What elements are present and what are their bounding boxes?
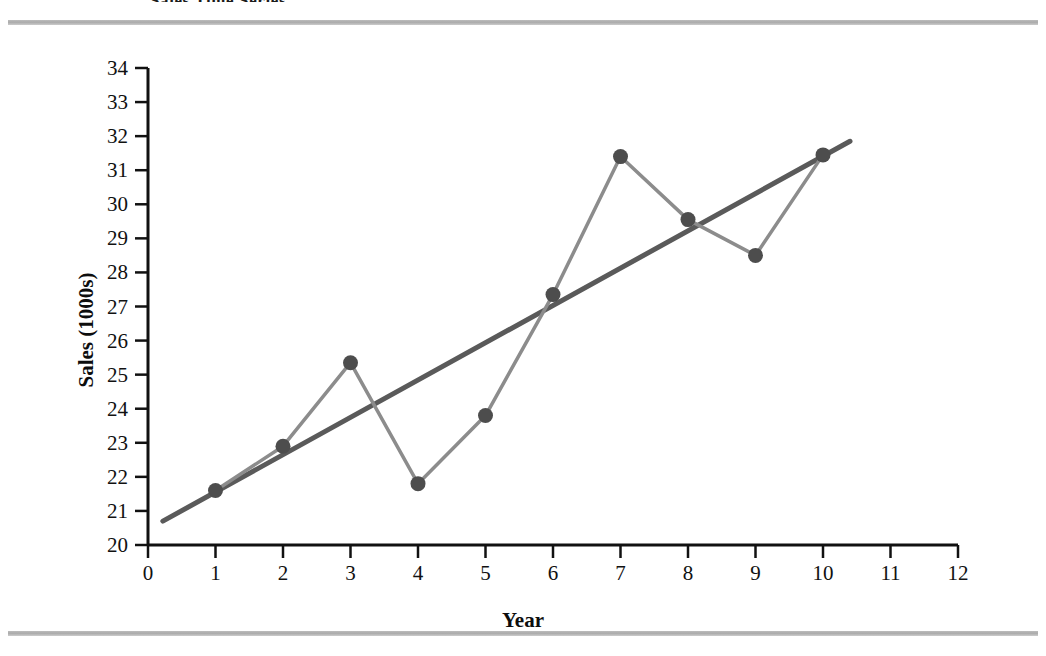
trend-line-path bbox=[163, 141, 850, 521]
page-rule-top bbox=[8, 20, 1038, 25]
y-tick-label: 28 bbox=[107, 262, 128, 283]
x-tick-label: 4 bbox=[413, 563, 424, 584]
x-tick-label: 8 bbox=[683, 563, 694, 584]
y-tick-label: 33 bbox=[107, 92, 128, 113]
x-tick-label: 1 bbox=[210, 563, 221, 584]
y-tick-label: 30 bbox=[107, 194, 128, 215]
y-tick-label: 20 bbox=[107, 535, 128, 556]
y-tick-label: 29 bbox=[107, 228, 128, 249]
x-axis-ticks bbox=[148, 545, 958, 558]
x-tick-label: 3 bbox=[345, 563, 356, 584]
sales-time-series-chart: 202122232425262728293031323334 012345678… bbox=[0, 30, 1046, 625]
y-tick-label: 23 bbox=[107, 432, 128, 453]
x-tick-label: 10 bbox=[813, 563, 834, 584]
data-point-marker bbox=[613, 149, 628, 164]
data-point-marker bbox=[343, 355, 358, 370]
trend-line bbox=[163, 141, 850, 521]
x-tick-label: 11 bbox=[880, 563, 900, 584]
y-tick-label: 24 bbox=[107, 398, 128, 419]
y-tick-label: 25 bbox=[107, 364, 128, 385]
y-tick-label: 21 bbox=[107, 500, 128, 521]
data-point-marker bbox=[681, 212, 696, 227]
data-point-marker bbox=[276, 439, 291, 454]
y-tick-label: 34 bbox=[107, 58, 128, 79]
x-tick-label: 12 bbox=[948, 563, 969, 584]
y-tick-label: 26 bbox=[107, 330, 128, 351]
x-tick-label: 0 bbox=[143, 563, 154, 584]
plot-canvas bbox=[0, 30, 1046, 625]
y-tick-label: 31 bbox=[107, 160, 128, 181]
data-point-marker bbox=[478, 408, 493, 423]
data-point-marker bbox=[208, 483, 223, 498]
x-tick-label: 5 bbox=[480, 563, 491, 584]
x-tick-label: 2 bbox=[278, 563, 289, 584]
y-tick-label: 22 bbox=[107, 466, 128, 487]
y-tick-label: 32 bbox=[107, 126, 128, 147]
data-point-marker bbox=[748, 248, 763, 263]
y-axis-title: Sales (1000s) bbox=[74, 273, 99, 388]
x-axis-title: Year bbox=[502, 608, 544, 633]
y-tick-label: 27 bbox=[107, 296, 128, 317]
data-point-marker bbox=[816, 147, 831, 162]
page-title: Sales Time Series bbox=[150, 0, 286, 2]
x-tick-label: 7 bbox=[615, 563, 626, 584]
data-point-marker bbox=[411, 476, 426, 491]
x-tick-label: 6 bbox=[548, 563, 559, 584]
x-tick-label: 9 bbox=[750, 563, 761, 584]
y-axis-ticks bbox=[135, 68, 148, 545]
data-point-marker bbox=[546, 287, 561, 302]
